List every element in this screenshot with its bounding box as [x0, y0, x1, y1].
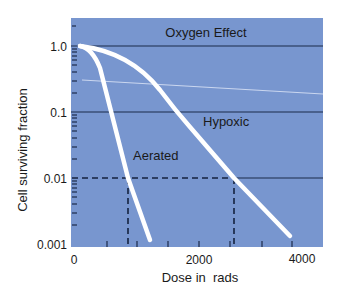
- y-axis-label: Cell surviving fraction: [15, 88, 30, 212]
- y-tick-label-0.01: 0.01: [44, 172, 68, 186]
- y-tick-label-1: 1.0: [50, 40, 67, 54]
- chart-title: Oxygen Effect: [165, 25, 247, 40]
- x-tick-label-0: 0: [71, 253, 78, 267]
- x-axis-label: Dose in rads: [162, 270, 239, 285]
- x-tick-label-2000: 2000: [186, 253, 213, 267]
- y-tick-label-0.001: 0.001: [37, 238, 67, 252]
- hypoxic-label: Hypoxic: [203, 114, 250, 129]
- aerated-label: Aerated: [133, 148, 179, 163]
- survival-curve-chart: Oxygen Effect Hypoxic Aerated 1.0 0.1 0.…: [0, 0, 344, 301]
- x-tick-label-4000: 4000: [289, 252, 316, 266]
- y-tick-label-0.1: 0.1: [50, 106, 67, 120]
